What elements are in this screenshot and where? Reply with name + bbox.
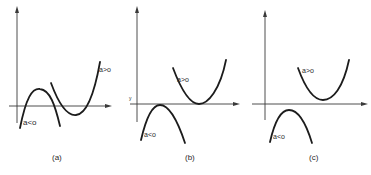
y-axis-arrow-icon — [15, 6, 19, 13]
curve-c-positive — [298, 60, 349, 100]
curve-a-positive — [51, 62, 100, 115]
label-a-positive: a>o — [99, 66, 111, 73]
y-axis-arrow-icon — [263, 10, 267, 17]
y-axis-arrow-icon — [135, 6, 139, 13]
polynomial-sign-diagram: a<o a>o (a) a>o a<o y (b) a>o a<o (c) — [0, 0, 371, 175]
axis-mark-y: y — [129, 95, 132, 101]
caption-b: (b) — [185, 153, 195, 162]
x-axis-arrow-icon — [105, 104, 112, 108]
panel-b: a>o a<o y (b) — [129, 6, 240, 162]
label-b-negative: a<o — [144, 131, 156, 138]
caption-a: (a) — [52, 153, 62, 162]
x-axis-arrow-icon — [361, 102, 368, 106]
panel-a: a<o a>o (a) — [9, 6, 112, 162]
x-axis-arrow-icon — [233, 102, 240, 106]
panel-c: a>o a<o (c) — [252, 10, 368, 162]
caption-c: (c) — [309, 153, 319, 162]
label-a-negative: a<o — [23, 118, 37, 127]
label-b-positive: a>o — [177, 76, 189, 83]
label-c-negative: a<o — [273, 133, 285, 140]
label-c-positive: a>o — [302, 67, 314, 74]
